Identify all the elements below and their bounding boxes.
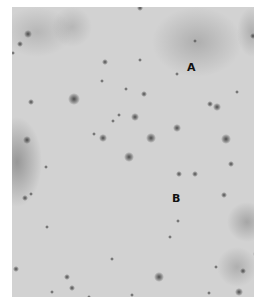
cell-spot [235, 90, 239, 94]
cell-spot [23, 136, 31, 144]
cell-spot [99, 134, 107, 142]
cell-spot [111, 119, 115, 123]
cell-spot [221, 134, 231, 144]
cell-spot [102, 59, 108, 65]
stain-haze [52, 7, 92, 47]
cell-spot [100, 79, 104, 83]
cell-spot [124, 152, 134, 162]
cell-spot [117, 113, 121, 117]
cell-spot [235, 288, 243, 296]
cell-spot [24, 30, 32, 38]
cell-spot [50, 290, 54, 294]
stain-haze [12, 117, 42, 207]
cell-spot [176, 171, 182, 177]
cell-spot [214, 265, 218, 269]
cell-spot [154, 272, 164, 282]
cell-spot [110, 257, 114, 261]
cell-spot [12, 51, 15, 55]
region-label-b: B [172, 193, 180, 204]
cell-spot [176, 219, 180, 223]
cell-spot [92, 132, 96, 136]
cell-spot [22, 195, 28, 201]
stain-haze [217, 247, 254, 287]
cell-spot [130, 293, 134, 297]
micrograph-image: A B [12, 7, 254, 297]
cell-spot [131, 113, 139, 121]
cell-spot [253, 250, 254, 258]
cell-spot [228, 161, 234, 167]
cell-spot [213, 103, 221, 111]
cell-spot [193, 39, 197, 43]
cell-spot [13, 266, 19, 272]
cell-spot [137, 7, 143, 11]
cell-spot [207, 291, 211, 295]
cell-spot [28, 99, 34, 105]
stain-haze [152, 7, 242, 77]
cell-spot [175, 72, 179, 76]
cell-spot [221, 192, 227, 198]
region-label-a: A [187, 62, 196, 73]
cell-spot [17, 41, 23, 47]
cell-spot [44, 165, 48, 169]
cell-spot [45, 225, 49, 229]
cell-spot [64, 274, 70, 280]
cell-spot [87, 295, 91, 297]
cell-spot [240, 268, 246, 274]
cell-spot [146, 133, 156, 143]
cell-spot [138, 58, 142, 62]
stain-haze [227, 202, 254, 242]
cell-spot [250, 33, 254, 39]
cell-spot [207, 101, 213, 107]
cell-spot [192, 171, 198, 177]
cell-spot [173, 124, 181, 132]
cell-spot [168, 235, 172, 239]
cell-spot [141, 91, 147, 97]
cell-spot [69, 285, 75, 291]
cell-spot [29, 192, 33, 196]
cell-spot [68, 93, 80, 105]
cell-spot [124, 87, 128, 91]
